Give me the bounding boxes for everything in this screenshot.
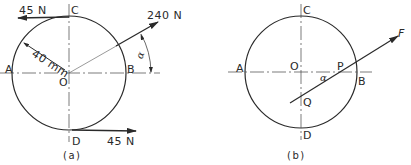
label-point-a-a: A	[5, 64, 13, 75]
label-point-b-b: B	[358, 76, 366, 87]
label-force-240: 240 N	[147, 10, 182, 21]
label-point-d-b: D	[303, 130, 312, 141]
label-point-b-a: B	[127, 64, 135, 75]
label-point-d-a: D	[72, 136, 81, 147]
label-point-c-a: C	[71, 5, 79, 16]
label-angle-b: α	[320, 73, 327, 83]
label-point-o-b: O	[290, 61, 299, 72]
line-o-to-force	[69, 45, 118, 73]
label-force-bottom: 45 N	[107, 136, 135, 147]
label-point-o-a: O	[59, 77, 68, 88]
label-point-p: P	[337, 61, 344, 72]
caption-a: (a)	[63, 150, 81, 161]
force-arrow-bottom	[72, 130, 136, 131]
force-arrow-240	[116, 22, 158, 46]
label-point-q: Q	[303, 97, 312, 108]
force-arrow-top	[18, 17, 69, 18]
label-force-f: F	[398, 28, 405, 39]
label-force-top: 45 N	[19, 5, 47, 16]
caption-b: (b)	[287, 150, 306, 161]
figure-b	[228, 4, 398, 140]
label-point-a-b: A	[236, 63, 244, 74]
figure-a	[0, 4, 160, 142]
label-point-c-b: C	[303, 5, 311, 16]
